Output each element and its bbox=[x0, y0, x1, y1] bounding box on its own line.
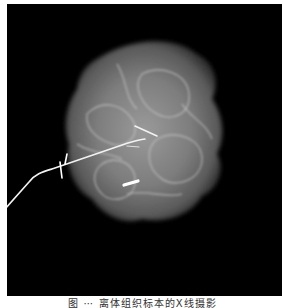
xray-image bbox=[7, 4, 282, 296]
tissue-specimen bbox=[66, 41, 223, 221]
specimen-radiograph bbox=[7, 4, 282, 296]
figure-caption: 图 ⋯ 离体组织标本的X线摄影 bbox=[0, 298, 285, 308]
